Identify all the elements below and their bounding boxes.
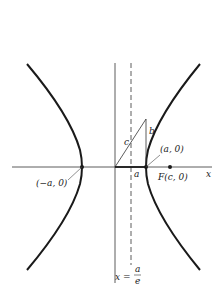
left-vertex-leader — [68, 167, 82, 180]
right-vertex-label: (a, 0) — [160, 144, 184, 154]
triangle-label-b: b — [149, 126, 155, 136]
directrix-label-numerator: a — [135, 264, 140, 274]
focus-point — [168, 165, 172, 169]
directrix-label-denominator: e — [135, 276, 140, 286]
triangle-label-a: a — [134, 169, 139, 179]
directrix-label-lhs: x = — [115, 272, 130, 282]
x-axis-label: x — [206, 169, 211, 179]
triangle-hypotenuse — [115, 119, 146, 167]
triangle-label-c: c — [124, 137, 129, 147]
hyperbola-diagram: c b a x (a, 0) F(c, 0) (−a, 0) x = a e — [0, 0, 223, 298]
left-vertex-label: (−a, 0) — [36, 178, 68, 188]
right-vertex-leader — [146, 155, 160, 167]
focus-label: F(c, 0) — [157, 172, 188, 182]
